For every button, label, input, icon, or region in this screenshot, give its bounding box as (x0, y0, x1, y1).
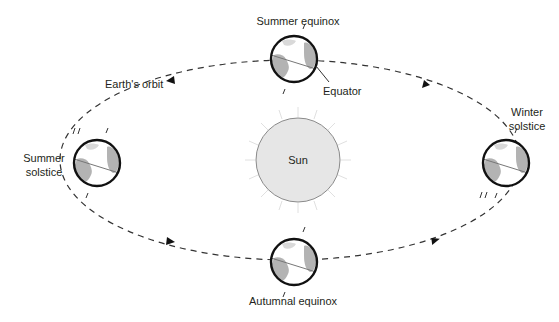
equator-leader-line (316, 66, 329, 82)
earth-summer-equinox (271, 24, 317, 94)
orbit-arrow-icon (166, 237, 175, 245)
earth-autumnal-equinox (271, 227, 317, 297)
label-summer-equinox: Summer equinox (256, 15, 340, 27)
label-summer-solstice-2: solstice (26, 166, 63, 178)
earth-summer-solstice (74, 128, 120, 198)
sun-label: Sun (288, 154, 308, 166)
earth-winter-solstice (483, 128, 529, 198)
seasons-orbit-diagram: Sun Summer equinox Winter solstice Autum… (0, 0, 559, 322)
orbit-arrow-icon (166, 76, 175, 84)
label-earths-orbit: Earth's orbit (105, 78, 163, 90)
orbit-arrow-icon (422, 80, 430, 88)
label-winter-solstice-2: solstice (509, 120, 546, 132)
label-equator: Equator (323, 85, 362, 97)
label-winter-solstice-1: Winter (511, 106, 543, 118)
label-autumnal-equinox: Autumnal equinox (249, 295, 338, 307)
label-summer-solstice-1: Summer (23, 152, 65, 164)
